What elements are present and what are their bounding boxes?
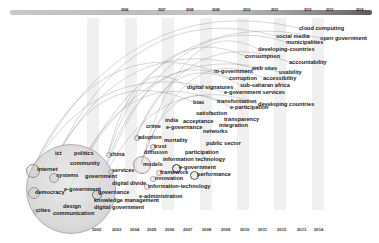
- bottom-year-label: 2011: [258, 227, 267, 232]
- keyword-label: consumption: [245, 53, 280, 59]
- keyword-label: sub-saharan africa: [240, 82, 290, 88]
- keyword-label: innovation: [155, 175, 183, 181]
- keyword-label: e-government services: [224, 89, 285, 95]
- keyword-label: knowledge management: [94, 197, 159, 203]
- keyword-label: open government: [320, 35, 367, 41]
- keyword-label: design: [63, 203, 81, 209]
- bottom-year-label: 2003: [112, 227, 121, 232]
- keyword-label: accessibility: [263, 75, 296, 81]
- bottom-year-label: 2006: [165, 227, 174, 232]
- keyword-label: adoption: [138, 134, 162, 140]
- keyword-label: public sector: [206, 140, 241, 146]
- keyword-label: digital government: [94, 204, 144, 210]
- timeline-cluster-diagram: 200620072008200920102011201220132014 clo…: [0, 0, 379, 243]
- keyword-label: india: [165, 117, 178, 123]
- keyword-label: models: [143, 161, 163, 167]
- keyword-label: information-technology: [148, 183, 210, 189]
- keyword-label: government: [85, 173, 117, 179]
- keyword-label: e-governance: [166, 124, 202, 130]
- bottom-year-label: 2007: [183, 227, 192, 232]
- bottom-year-label: 2005: [147, 227, 156, 232]
- keyword-label: accountability: [289, 59, 327, 65]
- keyword-label: e-government: [64, 186, 101, 192]
- bottom-year-label: 2014: [314, 227, 323, 232]
- keyword-label: information technology: [163, 156, 225, 162]
- keyword-label: digital divide: [112, 180, 146, 186]
- bottom-year-label: 2008: [202, 227, 211, 232]
- keyword-label: satisfaction: [196, 110, 227, 116]
- keyword-label: corruption: [229, 75, 257, 81]
- bottom-year-label: 2012: [277, 227, 286, 232]
- bottom-year-label: 2002: [92, 227, 101, 232]
- keyword-label: m-government: [214, 68, 253, 74]
- keyword-label: governance: [98, 189, 129, 195]
- keyword-label: politics: [74, 150, 94, 156]
- keyword-label: municipalities: [286, 39, 323, 45]
- keyword-label: democracy: [35, 189, 65, 195]
- keyword-label: diffusion: [144, 149, 168, 155]
- bottom-year-label: 2009: [221, 227, 230, 232]
- keyword-label: performance: [197, 171, 231, 177]
- bottom-year-label: 2010: [240, 227, 249, 232]
- keyword-label: ict: [55, 150, 62, 156]
- keyword-label: communication: [53, 210, 94, 216]
- keyword-label: cloud computing: [299, 25, 344, 31]
- keyword-label: community: [70, 160, 100, 166]
- keyword-label: systems: [56, 172, 78, 178]
- keyword-label: developing-countries: [258, 46, 315, 52]
- keyword-label: mortality: [164, 137, 188, 143]
- bottom-year-label: 2004: [130, 227, 139, 232]
- keyword-label: crime: [146, 123, 161, 129]
- keyword-label: web sites: [252, 65, 277, 71]
- keyword-label: networks: [203, 128, 228, 134]
- keyword-label: china: [110, 151, 125, 157]
- keyword-label: e-participation: [230, 104, 269, 110]
- bottom-year-label: 2013: [297, 227, 306, 232]
- keyword-label: cities: [36, 207, 50, 213]
- keyword-label: internet: [37, 166, 58, 172]
- keyword-label: participation: [185, 149, 219, 155]
- keyword-label: bias: [193, 99, 204, 105]
